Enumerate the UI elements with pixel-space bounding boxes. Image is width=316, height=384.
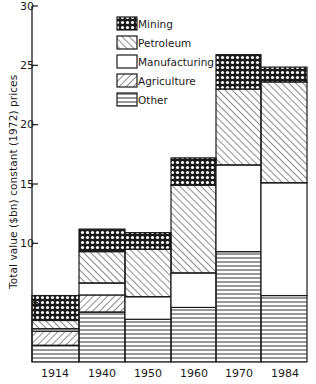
- bar-1984: [261, 67, 307, 362]
- segment-manufacturing: [261, 183, 307, 296]
- segment-agriculture: [32, 331, 79, 345]
- x-label-1960: 1960: [171, 367, 217, 380]
- y-tick-15: 15: [14, 178, 34, 191]
- segment-other: [32, 345, 79, 362]
- segment-petroleum: [79, 252, 125, 283]
- legend-label: Petroleum: [138, 37, 191, 49]
- segment-other: [171, 307, 216, 362]
- bar-1970: [216, 55, 261, 362]
- bars-group: [32, 55, 307, 362]
- y-tick-5: 5: [20, 297, 40, 310]
- segment-mining: [171, 158, 216, 185]
- segment-manufacturing: [216, 165, 261, 252]
- segment-petroleum: [216, 89, 261, 165]
- segment-agriculture: [79, 295, 125, 312]
- legend-label: Other: [138, 94, 168, 106]
- bar-1940: [79, 229, 125, 362]
- legend-item-mining: Mining: [116, 16, 173, 32]
- legend-item-manufacturing: Manufacturing: [116, 54, 214, 70]
- segment-petroleum: [32, 320, 79, 328]
- y-tick-20: 20: [14, 118, 34, 131]
- y-tick-10: 10: [14, 237, 34, 250]
- segment-mining: [261, 67, 307, 82]
- segment-petroleum: [171, 185, 216, 273]
- x-label-1914: 1914: [32, 367, 78, 380]
- bar-1960: [171, 158, 216, 362]
- segment-mining: [125, 233, 171, 250]
- legend-item-petroleum: Petroleum: [116, 35, 191, 51]
- legend-item-agriculture: Agriculture: [116, 73, 196, 89]
- legend-label: Manufacturing: [138, 56, 214, 68]
- segment-mining: [216, 55, 261, 89]
- segment-other: [79, 312, 125, 362]
- segment-manufacturing: [125, 297, 171, 320]
- segment-mining: [79, 229, 125, 252]
- segment-other: [261, 296, 307, 362]
- legend-label: Agriculture: [138, 75, 196, 87]
- segment-manufacturing: [79, 283, 125, 295]
- x-label-1950: 1950: [125, 367, 171, 380]
- legend-item-other: Other: [116, 92, 168, 108]
- legend-label: Mining: [138, 18, 173, 30]
- x-label-1940: 1940: [79, 367, 125, 380]
- segment-manufacturing: [171, 273, 216, 307]
- x-label-1970: 1970: [216, 367, 262, 380]
- bar-1950: [125, 233, 171, 362]
- segment-other: [125, 319, 171, 362]
- segment-other: [216, 252, 261, 362]
- x-label-1984: 1984: [262, 367, 308, 380]
- y-tick-30: 30: [14, 0, 34, 13]
- segment-petroleum: [125, 249, 171, 296]
- y-tick-25: 25: [14, 59, 34, 72]
- segment-petroleum: [261, 82, 307, 183]
